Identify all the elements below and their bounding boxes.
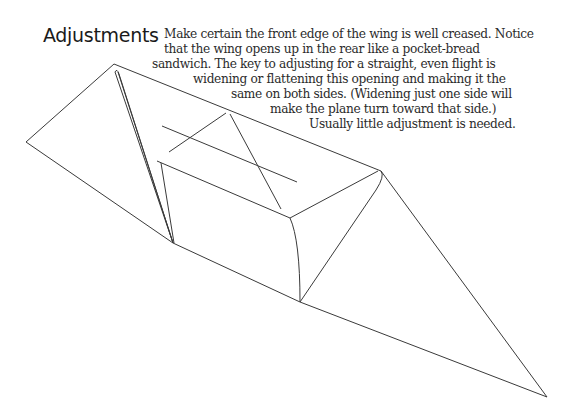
crease-line-long [162,126,297,182]
fuselage-right-curve [290,218,300,302]
wing-outline [26,64,547,397]
fuselage-left-edge [161,163,174,243]
paper-airplane-diagram [0,0,566,406]
fuselage-corner-to-peak [290,171,378,218]
